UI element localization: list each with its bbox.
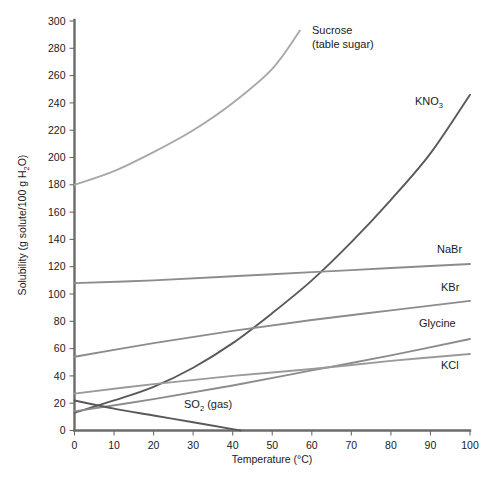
x-tick-label-70: 70 (346, 439, 358, 451)
y-tick-label-140: 140 (48, 233, 66, 245)
label-sucrose-line2: (table sugar) (312, 38, 374, 50)
label-so2-main: SO (184, 398, 200, 410)
y-tick-label-260: 260 (48, 69, 66, 81)
y-title-part2: O) (16, 155, 28, 167)
label-kno3-subscript: 3 (439, 101, 443, 110)
x-tick-label-10: 10 (108, 439, 120, 451)
label-sucrose-line1: Sucrose (312, 24, 352, 36)
y-tick-label-180: 180 (48, 178, 66, 190)
solubility-chart-figure: 0204060801001201401601802002202402602803… (0, 0, 493, 482)
x-tick-label-100: 100 (461, 439, 479, 451)
label-so2-tail: (gas) (204, 398, 232, 410)
y-tick-label-100: 100 (48, 288, 66, 300)
y-tick-label-280: 280 (48, 42, 66, 54)
y-tick-label-0: 0 (60, 424, 66, 436)
y-tick-label-80: 80 (54, 315, 66, 327)
y-title-part1: Solubility (g solute/100 g H (16, 170, 28, 295)
label-kcl: KCl (441, 359, 459, 371)
y-tick-label-60: 60 (54, 342, 66, 354)
y-tick-label-120: 120 (48, 260, 66, 272)
x-tick-label-80: 80 (385, 439, 397, 451)
x-tick-label-50: 50 (266, 439, 278, 451)
x-tick-label-60: 60 (306, 439, 318, 451)
label-kbr: KBr (441, 281, 460, 293)
x-tick-label-30: 30 (187, 439, 199, 451)
y-tick-label-220: 220 (48, 124, 66, 136)
y-tick-label-300: 300 (48, 15, 66, 27)
x-tick-label-90: 90 (425, 439, 437, 451)
x-tick-label-20: 20 (148, 439, 160, 451)
chart-canvas: 0204060801001201401601802002202402602803… (0, 0, 493, 482)
label-glycine: Glycine (419, 317, 456, 329)
x-tick-label-40: 40 (227, 439, 239, 451)
y-tick-label-200: 200 (48, 151, 66, 163)
label-nabr: NaBr (437, 243, 462, 255)
x-axis-title: Temperature (°C) (232, 453, 313, 465)
x-tick-label-0: 0 (72, 439, 78, 451)
y-tick-label-40: 40 (54, 370, 66, 382)
y-tick-label-240: 240 (48, 97, 66, 109)
y-tick-label-160: 160 (48, 206, 66, 218)
label-kno3-main: KNO (415, 95, 439, 107)
y-tick-label-20: 20 (54, 397, 66, 409)
